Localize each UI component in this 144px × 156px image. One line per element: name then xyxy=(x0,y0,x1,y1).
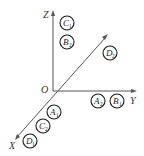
x-axis-line xyxy=(17,38,105,137)
node-D2: D 2 xyxy=(103,46,117,60)
node-subscript: 2 xyxy=(69,42,72,48)
node-B1: B 1 xyxy=(110,94,124,108)
x-axis-label: X xyxy=(8,140,16,151)
node-subscript: 1 xyxy=(56,112,59,118)
node-D1: D 1 xyxy=(23,134,37,148)
y-axis-arrow-icon xyxy=(131,89,137,93)
coordinate-diagram: Z Y X O C 1 B 2 D 2 A 2 B 1 A 1 C xyxy=(0,0,144,156)
z-axis-label: Z xyxy=(43,9,49,20)
node-C1: C 1 xyxy=(60,16,74,30)
node-C2: C 2 xyxy=(36,119,50,133)
node-B2: B 2 xyxy=(60,35,74,49)
node-subscript: 2 xyxy=(45,126,48,132)
diagonal-axis-arrow-icon xyxy=(102,34,108,40)
y-axis-label: Y xyxy=(130,95,137,106)
z-axis-arrow-icon xyxy=(51,10,55,16)
node-subscript: 2 xyxy=(112,53,115,59)
origin-label: O xyxy=(41,84,48,95)
node-A2: A 2 xyxy=(91,94,105,108)
node-subscript: 1 xyxy=(119,101,122,107)
node-subscript: 2 xyxy=(100,101,103,107)
node-subscript: 1 xyxy=(69,23,72,29)
node-letter: A xyxy=(93,96,100,106)
node-letter: A xyxy=(49,107,56,117)
node-A1: A 1 xyxy=(47,105,61,119)
node-subscript: 1 xyxy=(32,141,35,147)
